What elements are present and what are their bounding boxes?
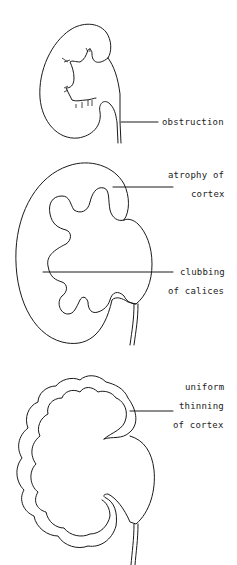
label-clubbing: clubbing [180, 267, 225, 277]
calyx-tufts [62, 48, 92, 108]
kidney-uniform-thinning: uniform thinning of cortex [17, 376, 224, 565]
kidney-outline-outer [17, 376, 154, 548]
label-atrophy-of: atrophy of [168, 170, 224, 180]
label-of-cortex: of cortex [173, 420, 224, 430]
kidney-obstruction: obstruction [40, 24, 224, 143]
label-uniform: uniform [185, 382, 224, 392]
kidney-atrophy-clubbing: atrophy of cortex clubbing of calices [16, 163, 225, 345]
label-thinning: thinning [179, 401, 224, 411]
renal-pelvis-edge [66, 49, 121, 143]
ureter [130, 304, 138, 345]
ureter [131, 524, 138, 565]
kidney-diagram: obstruction atrophy of cortex clubbing o… [0, 0, 237, 565]
label-cortex: cortex [191, 189, 225, 199]
label-of-calices: of calices [168, 286, 224, 296]
kidney-outline [16, 163, 152, 344]
clubbed-calices [48, 188, 136, 314]
label-obstruction: obstruction [162, 117, 224, 127]
kidney-outline [40, 24, 118, 143]
kidney-outline-inner [31, 388, 126, 537]
